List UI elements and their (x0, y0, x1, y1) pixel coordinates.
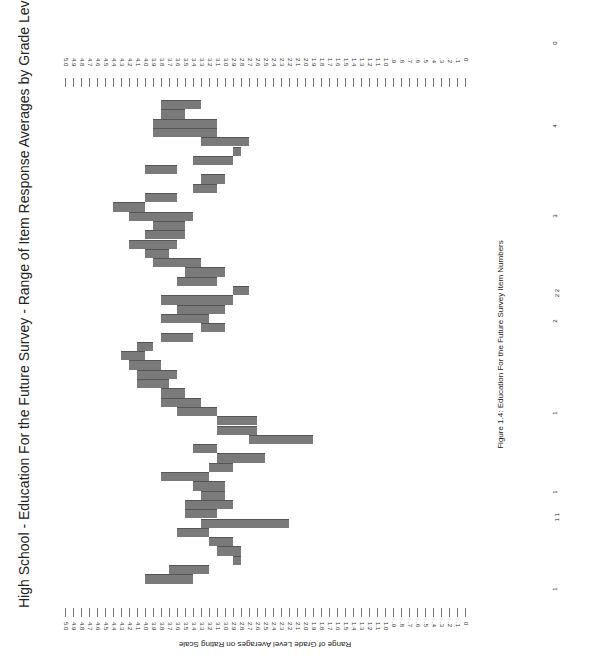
range-bar (161, 295, 233, 304)
tick-mark (249, 78, 250, 87)
range-bar (193, 444, 217, 453)
tick-mark (457, 78, 458, 87)
chart-title: High School - Education For the Future S… (16, 48, 32, 608)
range-bar (129, 240, 177, 249)
item-number-label: 0 (552, 41, 558, 44)
tick-mark (233, 78, 234, 87)
tick-mark (361, 78, 362, 87)
range-bar (169, 565, 209, 574)
tick-mark (113, 78, 114, 87)
tick-label: 5.0 (63, 622, 69, 630)
tick-mark (193, 78, 194, 87)
tick-label: 1.1 (375, 622, 381, 630)
range-bar (233, 556, 241, 565)
tick-label: 2.8 (239, 58, 245, 66)
tick-mark (161, 608, 162, 617)
tick-label: .6 (415, 58, 421, 63)
axis-title: Range of Grade Level Averages on Rating … (95, 640, 435, 649)
tick-label: 2.5 (263, 622, 269, 630)
tick-label: 1.0 (383, 58, 389, 66)
tick-mark (281, 608, 282, 617)
range-bar (217, 453, 265, 462)
tick-mark (105, 608, 106, 617)
tick-label: 1.5 (343, 58, 349, 66)
tick-label: 1.7 (327, 622, 333, 630)
tick-mark (233, 608, 234, 617)
tick-label: 4.4 (111, 58, 117, 66)
tick-label: 3.6 (175, 58, 181, 66)
tick-mark (81, 608, 82, 617)
tick-mark (137, 608, 138, 617)
tick-label: 2.7 (247, 622, 253, 630)
tick-label: 4.6 (95, 622, 101, 630)
tick-label: 2.2 (287, 58, 293, 66)
tick-mark (345, 78, 346, 87)
tick-label: 3.3 (199, 622, 205, 630)
tick-mark (81, 78, 82, 87)
tick-label: .2 (447, 58, 453, 63)
tick-label: 4.7 (87, 622, 93, 630)
tick-mark (129, 608, 130, 617)
tick-mark (313, 608, 314, 617)
range-bar (217, 426, 257, 435)
tick-label: 1.7 (327, 58, 333, 66)
range-bar (137, 370, 177, 379)
item-number-label: 1 (552, 490, 558, 493)
tick-mark (273, 78, 274, 87)
tick-mark (401, 608, 402, 617)
range-bar (161, 100, 201, 109)
tick-label: 1.6 (335, 58, 341, 66)
tick-label: 2.4 (271, 622, 277, 630)
tick-label: 3.9 (151, 58, 157, 66)
tick-mark (329, 608, 330, 617)
tick-mark (249, 608, 250, 617)
range-bar (193, 156, 233, 165)
tick-label: 4.1 (135, 58, 141, 66)
range-bar (153, 128, 217, 137)
tick-mark (433, 78, 434, 87)
tick-mark (425, 78, 426, 87)
range-bar (161, 314, 209, 323)
tick-label: 1.2 (367, 58, 373, 66)
tick-mark (353, 608, 354, 617)
tick-mark (121, 608, 122, 617)
tick-mark (361, 608, 362, 617)
tick-mark (441, 78, 442, 87)
range-bar (177, 528, 209, 537)
tick-mark (193, 608, 194, 617)
tick-label: 2.7 (247, 58, 253, 66)
tick-mark (425, 608, 426, 617)
tick-label: 3.5 (183, 58, 189, 66)
tick-label: 1.1 (375, 58, 381, 66)
tick-label: 3.8 (159, 58, 165, 66)
tick-label: 4.5 (103, 622, 109, 630)
tick-mark (337, 608, 338, 617)
tick-label: 2.3 (279, 58, 285, 66)
tick-mark (241, 78, 242, 87)
range-bar (201, 174, 225, 183)
range-bar (145, 249, 169, 258)
tick-mark (393, 78, 394, 87)
range-bar (153, 221, 185, 230)
tick-mark (73, 608, 74, 617)
tick-label: 3.9 (151, 622, 157, 630)
tick-label: 2.8 (239, 622, 245, 630)
tick-label: 4.4 (111, 622, 117, 630)
tick-mark (89, 608, 90, 617)
tick-mark (465, 78, 466, 87)
tick-mark (289, 78, 290, 87)
tick-mark (65, 78, 66, 87)
tick-mark (305, 78, 306, 87)
item-number-label: 4 (552, 124, 558, 127)
tick-label: 4.7 (87, 58, 93, 66)
range-bar (161, 109, 185, 118)
tick-label: 4.6 (95, 58, 101, 66)
tick-mark (433, 608, 434, 617)
range-bar (161, 388, 185, 397)
tick-label: .4 (431, 622, 437, 627)
tick-mark (273, 608, 274, 617)
range-bar (209, 537, 233, 546)
range-bar (137, 379, 169, 388)
tick-mark (265, 78, 266, 87)
tick-mark (257, 78, 258, 87)
